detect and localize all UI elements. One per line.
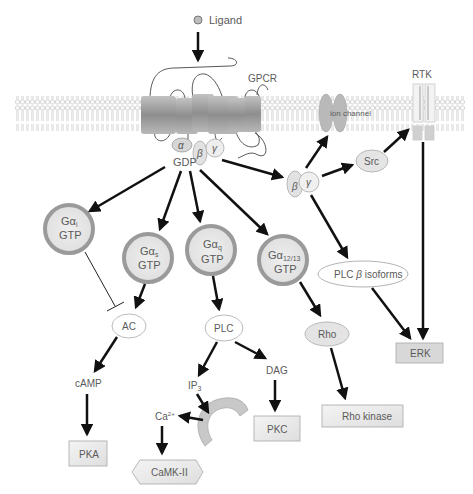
g-alpha-12-13-gtp: Gα12/13 GTP bbox=[259, 236, 307, 284]
arrow-plc-to-ip3 bbox=[199, 342, 217, 375]
g-alpha-q-gtp: Gαq GTP bbox=[187, 226, 235, 274]
svg-text:PKA: PKA bbox=[79, 449, 99, 460]
svg-text:PLC: PLC bbox=[214, 323, 233, 334]
gpcr-label: GPCR bbox=[248, 73, 277, 84]
svg-text:β: β bbox=[291, 181, 298, 192]
svg-text:GTP: GTP bbox=[201, 253, 224, 265]
beta-gamma-complex: β γ bbox=[287, 171, 319, 197]
svg-text:PLC β isoforms: PLC β isoforms bbox=[334, 269, 403, 280]
g-protein-trimer: α β γ GDP bbox=[172, 138, 224, 168]
rho-kinase-box: Rho kinase bbox=[322, 405, 403, 427]
g-alpha-i-gtp: Gαi GTP bbox=[45, 205, 93, 253]
arrow-src-to-rtk bbox=[384, 130, 408, 152]
plc-beta-isoforms-node: PLC β isoforms bbox=[318, 261, 408, 287]
plc-node: PLC bbox=[205, 315, 243, 341]
rtk-label: RTK bbox=[412, 69, 432, 80]
svg-text:Rho kinase: Rho kinase bbox=[342, 411, 392, 422]
arrow-rho-to-rho-kinase bbox=[331, 348, 345, 398]
svg-text:Gαi: Gαi bbox=[61, 215, 78, 228]
endoplasmic-reticulum bbox=[198, 398, 248, 446]
dag-label: DAG bbox=[266, 365, 288, 376]
ip3-label: IP3 bbox=[188, 380, 201, 392]
gdp-label: GDP bbox=[173, 156, 197, 168]
pathway-arrows bbox=[87, 130, 423, 453]
arrow-betagamma-to-ion-channel bbox=[306, 137, 327, 168]
camp-label: cAMP bbox=[75, 378, 102, 389]
src-node: Src bbox=[356, 150, 388, 172]
arrow-gaq-to-plc bbox=[213, 276, 219, 309]
arrow-ip3-to-er bbox=[197, 394, 208, 412]
camk-ii-box: CaMK-II bbox=[132, 460, 203, 484]
svg-text:GTP: GTP bbox=[138, 259, 161, 271]
arrow-gdp-to-gaq bbox=[190, 171, 200, 221]
svg-text:α: α bbox=[178, 140, 184, 151]
gpcr-signaling-diagram: Ligand GPCR α β γ GDP ion ch bbox=[0, 0, 473, 494]
arrow-gpcr-to-betagamma bbox=[222, 160, 282, 177]
arrow-plc-to-dag bbox=[235, 342, 265, 358]
erk-box: ERK bbox=[396, 343, 443, 363]
svg-text:GTP: GTP bbox=[274, 263, 297, 275]
ligand: Ligand bbox=[194, 14, 242, 26]
svg-text:Src: Src bbox=[364, 156, 379, 167]
arrow-betagamma-to-src bbox=[322, 165, 352, 176]
ion-channel-label: ion channel bbox=[330, 109, 371, 118]
g-alpha-s-gtp: Gαs GTP bbox=[124, 234, 172, 282]
svg-text:CaMK-II: CaMK-II bbox=[151, 467, 188, 478]
arrow-ga1213-to-rho bbox=[300, 282, 320, 315]
svg-text:AC: AC bbox=[122, 321, 136, 332]
svg-text:GTP: GTP bbox=[59, 229, 82, 241]
inhibition-gai-to-ac bbox=[85, 252, 124, 311]
arrow-betagamma-to-plcb bbox=[311, 195, 347, 257]
rho-node: Rho bbox=[305, 322, 349, 346]
svg-text:β: β bbox=[196, 148, 203, 159]
arrow-gas-to-ac bbox=[136, 284, 145, 307]
ac-node: AC bbox=[112, 314, 146, 338]
svg-text:ERK: ERK bbox=[410, 348, 431, 359]
arrow-gdp-to-gas bbox=[160, 171, 181, 229]
arrow-plcb-to-erk bbox=[372, 288, 410, 338]
calcium-label: Ca2+ bbox=[155, 411, 175, 422]
ligand-label: Ligand bbox=[209, 14, 242, 26]
arrow-gdp-to-gai bbox=[90, 167, 165, 211]
pkc-box: PKC bbox=[254, 416, 300, 441]
pka-box: PKA bbox=[69, 441, 107, 466]
svg-text:Rho: Rho bbox=[318, 329, 337, 340]
arrow-ac-to-camp bbox=[95, 337, 117, 371]
svg-text:PKC: PKC bbox=[267, 424, 288, 435]
ligand-icon bbox=[194, 16, 202, 24]
